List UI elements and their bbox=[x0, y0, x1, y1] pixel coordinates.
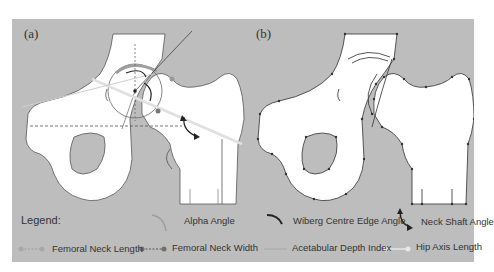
legend-title: Legend: bbox=[21, 214, 61, 226]
legend-alpha-angle: Alpha Angle bbox=[184, 215, 235, 226]
legend-neck-shaft-angle: Neck Shaft Angle bbox=[421, 216, 494, 227]
panel-b-label: (b) bbox=[256, 26, 271, 42]
panel-a-label: (a) bbox=[24, 26, 38, 42]
panel-b-drawing bbox=[257, 33, 474, 205]
legend-femoral-neck-width: Femoral Neck Width bbox=[172, 242, 258, 253]
wiberg-arc-icon bbox=[267, 215, 282, 224]
legend-acetabular-depth-index: Acetabular Depth Index bbox=[292, 242, 391, 253]
legend-hip-axis-length: Hip Axis Length bbox=[416, 241, 482, 252]
hip-diagram-figure: (a) (b) Legend: Alpha Angle Wiberg Centr… bbox=[12, 19, 474, 262]
panel-a-drawing bbox=[22, 31, 244, 204]
legend-femoral-neck-length: Femoral Neck Length bbox=[52, 243, 143, 254]
legend-wiberg-centre-edge-angle: Wiberg Centre Edge Angle bbox=[293, 215, 405, 226]
alpha-angle-icon bbox=[152, 215, 166, 231]
